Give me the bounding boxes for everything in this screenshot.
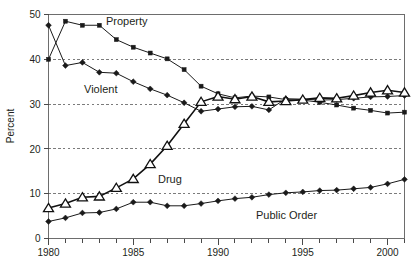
data-point-property-19 [369, 108, 373, 112]
data-point-property-6 [148, 51, 152, 55]
data-point-property-21 [403, 110, 407, 114]
y-tick-label-30: 30 [29, 99, 41, 110]
series-label-drug: Drug [158, 173, 182, 185]
y-tick-label-40: 40 [29, 54, 41, 65]
data-point-property-2 [80, 23, 84, 27]
line-chart: 0102030405019801985199019952000 Property… [0, 0, 419, 280]
y-tick-label-20: 20 [29, 144, 41, 155]
y-axis-label: Percent [5, 109, 16, 144]
series-label-violent: Violent [84, 83, 117, 95]
chart-container: 0102030405019801985199019952000 Property… [0, 0, 419, 280]
y-axis-title: Percent [5, 109, 16, 144]
data-point-property-4 [114, 38, 118, 42]
x-tick-label-1980: 1980 [37, 247, 60, 258]
data-point-property-20 [386, 111, 390, 115]
data-point-property-18 [352, 106, 356, 110]
data-point-property-17 [335, 103, 339, 107]
data-point-property-5 [131, 45, 135, 49]
data-point-property-9 [199, 84, 203, 88]
series-label-property: Property [106, 15, 148, 27]
data-point-property-3 [97, 23, 101, 27]
y-tick-label-50: 50 [29, 9, 41, 20]
x-tick-label-1985: 1985 [122, 247, 145, 258]
y-tick-label-0: 0 [35, 233, 41, 244]
series-label-public-order: Public Order [256, 209, 317, 221]
data-point-property-7 [165, 57, 169, 61]
data-point-property-0 [47, 57, 51, 61]
data-point-property-8 [182, 68, 186, 72]
x-tick-label-2000: 2000 [376, 247, 399, 258]
data-point-property-1 [63, 19, 67, 23]
y-tick-label-10: 10 [29, 188, 41, 199]
x-tick-label-1995: 1995 [292, 247, 315, 258]
x-tick-label-1990: 1990 [207, 247, 230, 258]
